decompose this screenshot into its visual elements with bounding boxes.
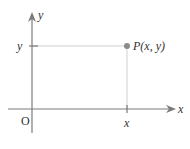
point-p [124, 43, 130, 49]
y-tick-label: y [16, 39, 23, 53]
origin-label: O [21, 114, 30, 128]
x-tick-label: x [123, 116, 130, 130]
coordinate-diagram: y x O y x P(x, y) [0, 0, 190, 149]
x-axis-label: x [177, 102, 184, 116]
y-axis-label: y [37, 8, 44, 22]
point-label: P(x, y) [132, 39, 165, 53]
